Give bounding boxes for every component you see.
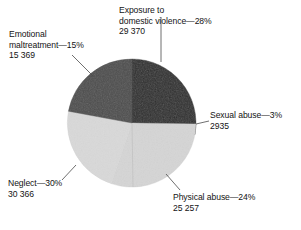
slice-label-line-1: Neglect—30% — [8, 178, 62, 189]
slice-label-value: 29 370 — [119, 26, 212, 37]
slice-label-sexual-abuse: Sexual abuse—3% 2935 — [210, 110, 282, 131]
slice-label-emotional-maltreatment: Emotional maltreatment—15% 15 369 — [9, 29, 84, 61]
slice-label-exposure-to-domestic-violence: Exposure to domestic violence—28% 29 370 — [119, 5, 212, 37]
slice-label-physical-abuse: Physical abuse—24% 25 257 — [173, 192, 255, 213]
slice-label-value: 2935 — [210, 121, 282, 132]
slice-label-line-1: Emotional — [9, 29, 84, 40]
slice-label-line-2: domestic violence—28% — [119, 16, 212, 27]
slice-label-line-2: maltreatment—15% — [9, 40, 84, 51]
leader-line-neglect — [62, 165, 76, 180]
slice-label-value: 30 366 — [8, 189, 62, 200]
leader-line-sexual-abuse — [196, 121, 209, 124]
slice-label-value: 25 257 — [173, 203, 255, 214]
slice-label-neglect: Neglect—30% 30 366 — [8, 178, 62, 199]
slice-label-line-1: Sexual abuse—3% — [210, 110, 282, 121]
leader-line-physical-abuse — [166, 174, 180, 190]
slice-label-line-1: Exposure to — [119, 5, 212, 16]
slice-label-line-1: Physical abuse—24% — [173, 192, 255, 203]
slice-label-value: 15 369 — [9, 50, 84, 61]
pie-chart-figure: Exposure to domestic violence—28% 29 370… — [0, 0, 301, 230]
